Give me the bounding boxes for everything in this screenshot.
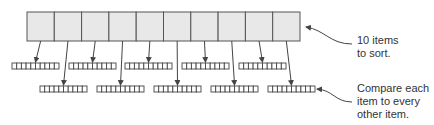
item-cell — [245, 12, 272, 41]
comparison-array — [211, 86, 258, 92]
arrow — [121, 41, 123, 85]
arrow — [286, 41, 291, 85]
item-cell — [82, 12, 109, 41]
item-cell — [136, 12, 163, 41]
callout-arrow-compare-each — [317, 89, 352, 102]
label-compare-each: Compare each item to every other item. — [357, 82, 429, 121]
label-items-to-sort: 10 items to sort. — [357, 34, 399, 60]
label-line: 10 items — [357, 34, 399, 47]
comparison-array — [97, 86, 144, 92]
arrow — [149, 41, 150, 62]
arrow — [259, 41, 262, 62]
item-cell — [27, 12, 54, 41]
comparison-array — [268, 86, 315, 92]
comparison-array — [154, 86, 201, 92]
arrow — [232, 41, 235, 85]
arrow — [36, 41, 41, 62]
label-line: Compare each — [357, 82, 429, 95]
top-array-10-items — [27, 12, 300, 41]
comparison-array — [69, 63, 116, 69]
item-cell — [218, 12, 245, 41]
arrow — [64, 41, 68, 85]
label-line: to sort. — [357, 47, 399, 60]
comparison-array — [182, 63, 229, 69]
item-cell — [191, 12, 218, 41]
label-line: item to every — [357, 95, 429, 108]
arrow — [204, 41, 205, 62]
comparison-array — [40, 86, 87, 92]
comparison-array — [239, 63, 286, 69]
comparison-array — [125, 63, 172, 69]
callout-arrow-items-to-sort — [306, 27, 352, 44]
item-cell — [109, 12, 136, 41]
arrow — [93, 41, 96, 62]
label-line: other item. — [357, 108, 429, 121]
comparison-arrays — [12, 63, 315, 92]
item-cell — [164, 12, 191, 41]
item-cell — [54, 12, 81, 41]
item-cell — [273, 12, 300, 41]
comparison-array — [12, 63, 59, 69]
